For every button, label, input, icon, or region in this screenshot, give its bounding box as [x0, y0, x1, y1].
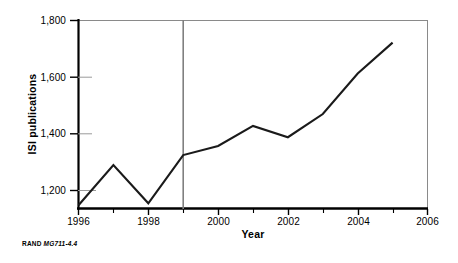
figure-credit-number: MG711-4.4 [44, 240, 78, 247]
series-line-isi-publications [79, 43, 393, 206]
y-tick-label-1200: 1,200 [18, 186, 66, 196]
figure-container: ISI publications 1,800 1,600 1,400 1,200… [0, 0, 458, 263]
y-tick-label-1600: 1,600 [18, 73, 66, 83]
x-tick-label-1998: 1998 [127, 217, 171, 227]
y-tick-label-1400: 1,400 [18, 129, 66, 139]
x-tick-label-2006: 2006 [406, 217, 450, 227]
x-tick-label-2004: 2004 [337, 217, 381, 227]
figure-credit-prefix: RAND [22, 240, 42, 247]
x-axis-title: Year [78, 228, 428, 240]
x-tick-marks [79, 209, 428, 215]
x-tick-label-1996: 1996 [57, 217, 101, 227]
y-axis-title: ISI publications [26, 34, 38, 194]
x-tick-label-2000: 2000 [197, 217, 241, 227]
figure-credit: RAND MG711-4.4 [22, 240, 77, 247]
y-tick-label-1800: 1,800 [18, 16, 66, 26]
y-tick-stubs [78, 77, 96, 190]
y-tick-marks [70, 21, 78, 191]
x-tick-label-2002: 2002 [267, 217, 311, 227]
axis-lines [77, 19, 428, 210]
